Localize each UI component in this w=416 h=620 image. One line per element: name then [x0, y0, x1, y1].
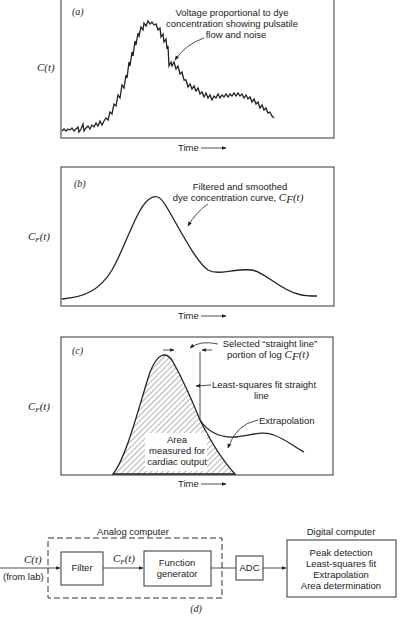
- panel-a-annotation-line1: Voltage proportional to dye: [175, 7, 288, 18]
- figure-canvas: (a) C(t) Voltage proportional to dye con…: [0, 0, 416, 620]
- panel-b-label: (b): [74, 178, 86, 190]
- panel-b-ylabel: CF(t): [28, 230, 50, 244]
- panel-c-xlabel: Time: [178, 478, 199, 489]
- input-source-label: (from lab): [3, 571, 44, 582]
- function-generator-line2: generator: [157, 568, 198, 579]
- lsq-annotation-line1: Least-squares fit straight: [212, 379, 316, 390]
- area-label-line3: cardiac output: [147, 456, 207, 467]
- filtered-signal-label: CF(t): [113, 552, 135, 566]
- panel-c: (c) CF(t) Area measured for cardiac outp…: [28, 337, 333, 489]
- selected-annotation-line2: portion of log CF(t): [227, 348, 309, 362]
- area-label-line1: Area: [167, 434, 188, 445]
- analog-computer-label: Analog computer: [97, 526, 169, 537]
- extrapolation-annotation: Extrapolation: [259, 415, 314, 426]
- panel-d-label: (d): [190, 603, 202, 615]
- panel-b: (b) CF(t) Filtered and smoothed dye conc…: [28, 167, 334, 321]
- panel-b-xlabel: Time: [178, 310, 199, 321]
- digital-step-3: Extrapolation: [313, 569, 368, 580]
- lsq-annotation-line2: line: [254, 390, 269, 401]
- panel-c-label: (c): [72, 345, 84, 357]
- function-generator-line1: Function: [159, 557, 195, 568]
- input-signal-label: C(t): [24, 553, 42, 566]
- panel-b-annotation-line1: Filtered and smoothed: [193, 181, 288, 192]
- panel-a: (a) C(t) Voltage proportional to dye con…: [37, 0, 334, 153]
- block-diagram: C(t) (from lab) Analog computer Filter C…: [0, 526, 396, 615]
- panel-c-ylabel: CF(t): [28, 400, 50, 414]
- panel-a-ylabel: C(t): [37, 61, 55, 74]
- panel-b-annotation-line2: dye concentration curve, CF(t): [173, 191, 304, 205]
- panel-a-annotation-line3: flow and noise: [206, 29, 267, 40]
- digital-step-4: Area determination: [301, 580, 381, 591]
- adc-label: ADC: [239, 562, 259, 573]
- panel-a-annotation-line2: concentration showing pulsatile: [166, 18, 298, 29]
- area-label-line2: measured for: [149, 445, 205, 456]
- digital-step-1: Peak detection: [310, 547, 373, 558]
- digital-computer-label: Digital computer: [307, 526, 376, 537]
- digital-step-2: Least-squares fit: [306, 558, 377, 569]
- panel-a-label: (a): [72, 6, 84, 18]
- filter-label: Filter: [71, 562, 92, 573]
- panel-a-xlabel: Time: [178, 142, 199, 153]
